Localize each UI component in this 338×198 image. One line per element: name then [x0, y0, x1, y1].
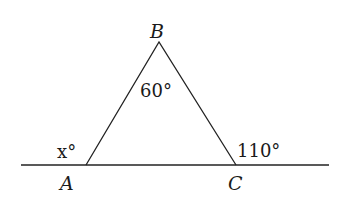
vertex-label-a: A: [58, 172, 74, 194]
triangle-sides: [86, 42, 236, 165]
vertex-label-c: C: [228, 172, 243, 194]
triangle-diagram: B A C 60° x° 110°: [0, 0, 338, 198]
angle-label-a-exterior: x°: [57, 141, 76, 162]
angle-label-c-exterior: 110°: [237, 140, 280, 161]
angle-label-b: 60°: [140, 80, 172, 101]
vertex-label-b: B: [149, 20, 164, 42]
